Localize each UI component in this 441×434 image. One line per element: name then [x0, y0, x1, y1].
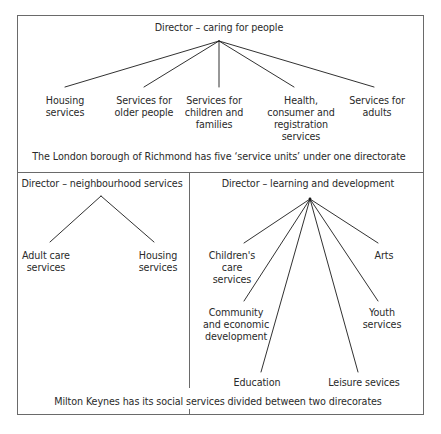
unit-label-line: care [209, 262, 256, 274]
unit-label-line: services [363, 319, 402, 331]
unit-label-line: families [185, 119, 243, 131]
unit-label-line: services [139, 262, 178, 274]
unit-youth-services: Youth services [363, 307, 402, 331]
unit-community-economic-development: Community and economic development [203, 307, 269, 343]
unit-label-line: Adult care [22, 250, 70, 262]
unit-label-line: services [22, 262, 70, 274]
richmond-caption: The London borough of Richmond has five … [32, 151, 405, 163]
unit-label-line: children and [185, 107, 243, 119]
unit-health-consumer-registration: Health, consumer and registration servic… [267, 95, 334, 143]
unit-services-children-families: Services for children and families [185, 95, 243, 131]
apex-node-learning [309, 198, 312, 201]
unit-label-line: and economic [203, 319, 269, 331]
unit-label-line: Services for [115, 95, 174, 107]
unit-label-line: services [209, 274, 256, 286]
connector-older-people [144, 41, 219, 87]
unit-label-line: Youth [363, 307, 402, 319]
milton-keynes-caption: Milton Keynes has its social services di… [54, 396, 382, 408]
connector-adults [219, 41, 374, 87]
unit-label-line: services [46, 107, 85, 119]
connector-adult-care [50, 196, 101, 242]
unit-arts: Arts [375, 250, 394, 262]
unit-education: Education [234, 377, 281, 389]
connector-childrens-care [244, 199, 310, 243]
unit-adult-care-services: Adult care services [22, 250, 70, 274]
unit-label-line: services [267, 131, 334, 143]
unit-label-line: Services for [349, 95, 405, 107]
unit-label-line: Community [203, 307, 269, 319]
connector-lines [0, 0, 441, 434]
connector-youth [310, 199, 378, 301]
unit-leisure-services: Leisure sevices [328, 377, 399, 389]
unit-label-line: older people [115, 107, 174, 119]
unit-label-line: development [203, 331, 269, 343]
connector-housing [65, 41, 219, 87]
director-neighbourhood-services: Director – neighbourhood services [21, 178, 182, 190]
unit-services-older-people: Services for older people [115, 95, 174, 119]
unit-housing-services-2: Housing services [139, 250, 178, 274]
unit-label-line: adults [349, 107, 405, 119]
unit-label-line: Services for [185, 95, 243, 107]
director-caring-for-people: Director – caring for people [155, 22, 283, 34]
unit-label-line: Housing [139, 250, 178, 262]
unit-label-line: consumer and [267, 107, 334, 119]
unit-childrens-care-services: Children's care services [209, 250, 256, 286]
unit-label-line: Children's [209, 250, 256, 262]
unit-services-adults: Services for adults [349, 95, 405, 119]
connector-health [219, 41, 294, 87]
unit-label-line: Health, [267, 95, 334, 107]
director-learning-development: Director – learning and development [222, 178, 395, 190]
unit-housing-services: Housing services [46, 95, 85, 119]
connector-housing-2 [101, 196, 154, 242]
unit-label-line: Housing [46, 95, 85, 107]
connector-education [261, 199, 310, 372]
unit-label-line: registration [267, 119, 334, 131]
